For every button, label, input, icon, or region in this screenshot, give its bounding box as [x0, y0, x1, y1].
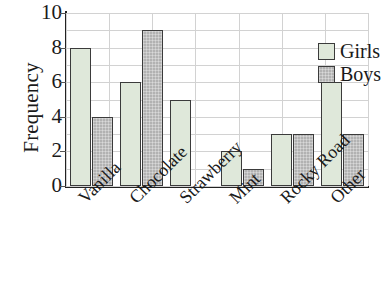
bar-vanilla-girls: [70, 48, 91, 186]
bar-rocky-road-girls: [271, 134, 292, 186]
legend-swatch-boys-icon: [318, 66, 335, 83]
legend-label: Boys: [340, 64, 381, 84]
grid-line-horizontal: [66, 30, 368, 31]
y-tick-mark: [60, 82, 66, 83]
y-tick-label: 2: [28, 140, 62, 161]
y-tick-label: 6: [28, 71, 62, 92]
legend-swatch-girls-icon: [318, 43, 335, 60]
legend-label: Girls: [340, 41, 380, 61]
grid-line-vertical: [368, 13, 369, 186]
y-tick-mark: [60, 48, 66, 49]
grid-line-horizontal: [66, 13, 368, 14]
legend-item-boys: Boys: [318, 63, 381, 85]
y-tick-label: 4: [28, 106, 62, 127]
legend: GirlsBoys: [318, 40, 381, 86]
y-tick-label: 10: [28, 2, 62, 23]
x-axis-category-labels: VanillaChocolateStrawberryMintRocky Road…: [0, 186, 375, 292]
y-tick-mark: [60, 13, 66, 14]
y-tick-label: 8: [28, 37, 62, 58]
y-tick-mark: [60, 117, 66, 118]
legend-item-girls: Girls: [318, 40, 381, 62]
y-tick-mark: [60, 186, 66, 187]
grid-line-vertical: [195, 13, 196, 186]
grid-line-vertical: [66, 13, 67, 186]
y-tick-mark: [60, 151, 66, 152]
